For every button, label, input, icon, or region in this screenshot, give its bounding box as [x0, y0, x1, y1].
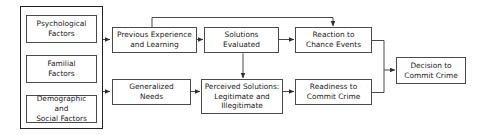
- node-solutions-evaluated-label: Solutions Evaluated: [223, 30, 260, 50]
- node-decision-commit-crime-label: Decision to Commit Crime: [404, 61, 457, 81]
- node-demographic-social-factors-label: Demographic and Social Factors: [29, 94, 94, 123]
- node-perceived-solutions[interactable]: Perceived Solutions: Legitimate and Ille…: [201, 79, 283, 114]
- node-psychological-factors[interactable]: Psychological Factors: [26, 15, 97, 43]
- node-reaction-chance-events[interactable]: Reaction to Chance Events: [295, 27, 372, 53]
- edge-previous-experience-feedback-to-reaction: [152, 18, 333, 28]
- node-generalized-needs-label: Generalized Needs: [129, 82, 173, 102]
- node-previous-experience-label: Previous Experience and Learning: [117, 30, 192, 50]
- diagram-canvas: Psychological Factors Familial Factors D…: [0, 0, 484, 135]
- node-readiness-commit-crime-label: Readiness to Commit Crime: [307, 82, 360, 102]
- edge-reaction-to-decision: [372, 41, 385, 71]
- node-reaction-chance-events-label: Reaction to Chance Events: [306, 30, 361, 50]
- node-previous-experience[interactable]: Previous Experience and Learning: [112, 27, 197, 53]
- node-generalized-needs[interactable]: Generalized Needs: [112, 79, 191, 105]
- node-perceived-solutions-label: Perceived Solutions: Legitimate and Ille…: [205, 82, 280, 111]
- node-decision-commit-crime[interactable]: Decision to Commit Crime: [396, 57, 466, 84]
- node-solutions-evaluated[interactable]: Solutions Evaluated: [204, 27, 279, 53]
- node-readiness-commit-crime[interactable]: Readiness to Commit Crime: [295, 79, 372, 105]
- node-psychological-factors-label: Psychological Factors: [37, 19, 87, 39]
- node-familial-factors-label: Familial Factors: [47, 59, 75, 79]
- node-familial-factors[interactable]: Familial Factors: [26, 55, 97, 83]
- edge-readiness-to-decision: [372, 70, 385, 93]
- node-demographic-social-factors[interactable]: Demographic and Social Factors: [26, 95, 97, 123]
